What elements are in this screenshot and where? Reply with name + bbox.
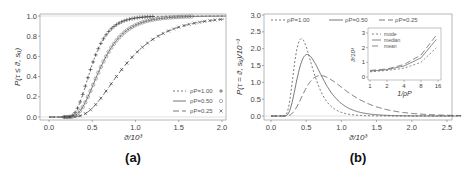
y-tick-label: 0.0 — [27, 113, 37, 122]
panel-b: 0.00.51.01.52.02.53.00.00.51.01.52.02.5ϑ… — [235, 11, 461, 166]
plot-frame — [40, 14, 226, 120]
svg-text:0: 0 — [362, 74, 366, 80]
svg-text:1: 1 — [362, 59, 366, 65]
y-tick-label: 1.5 — [251, 61, 261, 70]
svg-text:ρP=0.25: ρP=0.25 — [190, 108, 213, 114]
x-tick-label: 0.0 — [266, 123, 276, 132]
x-tick-label: 0.5 — [87, 123, 97, 132]
inset: 01231248161/ρPϑ/10³modemedianmean — [350, 28, 442, 98]
svg-text:ϑ/10³: ϑ/10³ — [350, 47, 356, 62]
y-tick-label: 0.6 — [27, 52, 37, 61]
svg-text:4: 4 — [402, 83, 406, 89]
y-tick-label: 2.0 — [251, 44, 261, 53]
x-tick-label: 1.0 — [130, 123, 140, 132]
svg-text:1: 1 — [368, 83, 372, 89]
y-tick-label: 0.8 — [27, 32, 37, 41]
svg-text:mean: mean — [384, 43, 397, 49]
y-tick-label: 3.0 — [251, 11, 261, 20]
markers-0 — [63, 15, 155, 119]
x-tick-label: 2.5 — [442, 123, 452, 132]
markers-1 — [63, 15, 194, 119]
x-tick-label: 1.5 — [371, 123, 381, 132]
y-tick-label: 0.4 — [27, 72, 37, 81]
y-axis-label: P(τ ≤ ϑ, sᵤ) — [13, 48, 22, 87]
svg-text:1/ρP: 1/ρP — [397, 90, 412, 98]
figure: 0.00.20.40.60.81.00.00.51.01.52.0ϑ/10³P(… — [0, 0, 464, 173]
y-tick-label: 1.0 — [251, 78, 261, 87]
y-tick-label: 2.5 — [251, 27, 261, 36]
x-tick-label: 2.0 — [217, 123, 227, 132]
y-axis-label: P(τ = ϑ, sᵤ)/10⁻³ — [235, 39, 244, 96]
svg-text:2: 2 — [385, 83, 389, 89]
y-tick-label: 0.5 — [251, 95, 261, 104]
svg-text:ρP=1.00: ρP=1.00 — [287, 17, 310, 23]
svg-text:ρP=0.50: ρP=0.50 — [345, 17, 368, 23]
panel-label-a: (a) — [125, 150, 141, 165]
y-tick-label: 1.0 — [27, 12, 37, 21]
y-tick-label: 0.0 — [251, 112, 261, 121]
legend-a: ρP=1.00ρP=0.50ρP=0.25 — [173, 88, 223, 114]
x-tick-label: 1.5 — [174, 123, 184, 132]
svg-text:3: 3 — [362, 30, 366, 36]
svg-text:ρP=0.50: ρP=0.50 — [190, 98, 213, 104]
panel-label-b: (b) — [350, 150, 367, 165]
x-tick-label: 1.0 — [336, 123, 346, 132]
svg-text:ρP=0.25: ρP=0.25 — [395, 17, 418, 23]
y-tick-label: 0.2 — [27, 92, 37, 101]
legend-b: ρP=1.00ρP=0.50ρP=0.25 — [271, 17, 418, 23]
panel-a: 0.00.20.40.60.81.00.00.51.01.52.0ϑ/10³P(… — [13, 12, 227, 166]
x-tick-label: 0.5 — [301, 123, 311, 132]
x-tick-label: 2.0 — [407, 123, 417, 132]
x-tick-label: 0.0 — [44, 123, 54, 132]
svg-text:16: 16 — [435, 83, 442, 89]
pdf-line-2 — [271, 76, 461, 116]
svg-text:ρP=1.00: ρP=1.00 — [190, 88, 213, 94]
svg-text:8: 8 — [419, 83, 423, 89]
x-axis-label: ϑ/10³ — [349, 133, 368, 142]
x-axis-label: ϑ/10³ — [124, 133, 143, 142]
svg-text:2: 2 — [362, 45, 366, 51]
